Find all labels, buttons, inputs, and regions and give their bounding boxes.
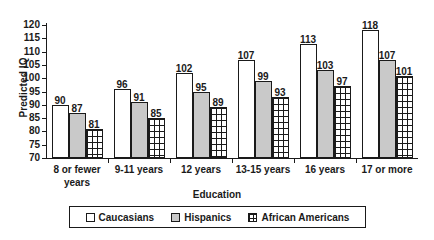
bar-item: 118 [362, 30, 379, 158]
x-tick-mark [356, 158, 357, 163]
bar-group: 1079993 [232, 25, 294, 158]
y-tick-label: 75 [2, 140, 40, 150]
bar-value-label: 97 [336, 76, 347, 87]
bar-item: 81 [86, 129, 103, 158]
bar-group-bars: 969185 [108, 25, 170, 158]
bar: 87 [69, 113, 86, 158]
bar-item: 85 [148, 118, 165, 158]
bar: 93 [272, 97, 289, 158]
y-tick-label: 95 [2, 87, 40, 97]
x-tick-label: 13-15 years [232, 164, 294, 177]
bar-item: 99 [255, 81, 272, 158]
bar-value-label: 102 [176, 63, 193, 74]
bar-item: 101 [396, 76, 413, 158]
bar-value-label: 95 [195, 82, 206, 93]
legend-swatch [248, 213, 257, 222]
bar-value-label: 103 [317, 60, 334, 71]
y-tick-label: 120 [2, 20, 40, 30]
y-tick-label: 85 [2, 113, 40, 123]
bar-item: 89 [210, 107, 227, 158]
bar-value-label: 107 [379, 50, 396, 61]
y-tick-label: 100 [2, 73, 40, 83]
bar-value-label: 89 [212, 97, 223, 108]
bar-item: 90 [52, 105, 69, 158]
x-axis-title: Education [0, 189, 434, 200]
bar-item: 97 [334, 86, 351, 158]
x-tick-mark [170, 158, 171, 163]
y-tick-label: 70 [2, 153, 40, 163]
chart-legend: CaucasiansHispanicsAfrican Americans [69, 206, 366, 228]
bar-item: 91 [131, 102, 148, 158]
bar-item: 107 [379, 60, 396, 158]
bar: 95 [193, 92, 210, 159]
bar-value-label: 113 [300, 34, 316, 45]
bar-group-bars: 1029589 [170, 25, 232, 158]
bar-group-bars: 11310397 [294, 25, 356, 158]
bar: 102 [176, 73, 193, 158]
x-tick-mark [108, 158, 109, 163]
bar-item: 93 [272, 97, 289, 158]
bar-value-label: 85 [150, 108, 161, 119]
bar-group: 908781 [46, 25, 108, 158]
bar: 113 [300, 44, 317, 158]
bar-value-label: 99 [257, 71, 268, 82]
bar-value-label: 107 [238, 50, 255, 61]
y-tick-label: 80 [2, 126, 40, 136]
bar-item: 102 [176, 73, 193, 158]
bar-item: 107 [238, 60, 255, 158]
legend-item: African Americans [248, 212, 349, 223]
legend-swatch [171, 213, 180, 222]
bar-group-bars: 908781 [46, 25, 108, 158]
legend-label: Caucasians [99, 212, 155, 223]
x-tick-label: 16 years [294, 164, 356, 177]
bar-group: 969185 [108, 25, 170, 158]
bar-value-label: 101 [396, 66, 413, 77]
bar-group-bars: 1079993 [232, 25, 294, 158]
bar: 85 [148, 118, 165, 158]
y-tick-label: 105 [2, 60, 40, 70]
legend-label: African Americans [261, 212, 349, 223]
bar: 97 [334, 86, 351, 158]
x-tick-label: 8 or fewer years [46, 164, 108, 189]
y-tick-mark [42, 158, 46, 159]
bar: 107 [238, 60, 255, 158]
bar-value-label: 96 [116, 79, 127, 90]
bar-group: 118107101 [356, 25, 418, 158]
x-tick-mark [232, 158, 233, 163]
bar-item: 87 [69, 113, 86, 158]
bar: 96 [114, 89, 131, 158]
bar-item: 113 [300, 44, 317, 158]
bar-value-label: 93 [274, 87, 285, 98]
x-tick-label: 12 years [170, 164, 232, 177]
legend-label: Hispanics [184, 212, 231, 223]
legend-swatch [86, 213, 95, 222]
x-tick-label: 17 or more [356, 164, 418, 177]
legend-item: Hispanics [171, 212, 231, 223]
bar-value-label: 90 [54, 95, 65, 106]
bar: 103 [317, 70, 334, 158]
bar: 99 [255, 81, 272, 158]
bar-chart: Predicted IQ 120115110105100959085807570… [0, 0, 434, 240]
bar-group: 1029589 [170, 25, 232, 158]
bar-item: 103 [317, 70, 334, 158]
plot-area: 1201151101051009590858075709087819691851… [46, 25, 418, 158]
bar: 118 [362, 30, 379, 158]
bar-item: 96 [114, 89, 131, 158]
bar-group: 11310397 [294, 25, 356, 158]
legend-item: Caucasians [86, 212, 155, 223]
bar: 101 [396, 76, 413, 158]
y-tick-label: 110 [2, 47, 40, 57]
y-tick-label: 115 [2, 33, 40, 43]
x-tick-mark [294, 158, 295, 163]
bar-item: 95 [193, 92, 210, 159]
bar-value-label: 81 [88, 119, 99, 130]
bar-group-bars: 118107101 [356, 25, 418, 158]
bar: 107 [379, 60, 396, 158]
x-tick-label: 9-11 years [108, 164, 170, 177]
bar-value-label: 118 [362, 20, 378, 31]
bar: 81 [86, 129, 103, 158]
bar-value-label: 87 [71, 103, 82, 114]
bar-value-label: 91 [133, 92, 144, 103]
bar: 90 [52, 105, 69, 158]
bar: 89 [210, 107, 227, 158]
